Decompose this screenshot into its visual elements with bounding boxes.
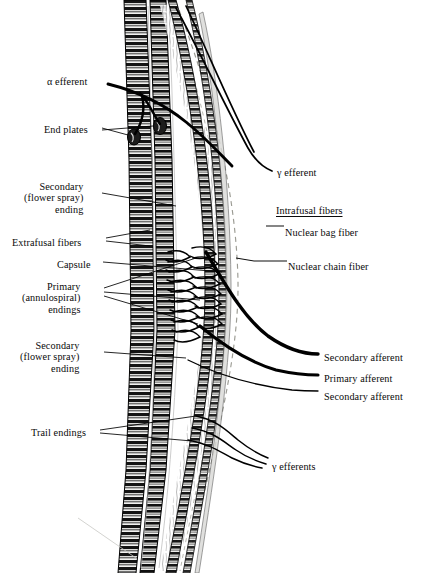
label-secondary-afferent-1: Secondary afferent — [324, 352, 403, 363]
label-nuclear-chain-fiber: Nuclear chain fiber — [288, 261, 369, 272]
label-secondary-afferent-2: Secondary afferent — [324, 391, 403, 402]
label-nuclear-bag-fiber: Nuclear bag fiber — [285, 227, 358, 238]
label-extrafusal-fibers: Extrafusal fibers — [12, 237, 81, 248]
label-trail-endings: Trail endings — [31, 427, 86, 438]
label-gamma-efferent: γ efferent — [277, 167, 317, 178]
label-capsule: Capsule — [57, 259, 91, 270]
label-gamma-efferents: γ efferents — [272, 461, 316, 472]
label-alpha-efferent: α efferent — [47, 76, 87, 87]
label-primary-endings: Primary (annulospiral) endings — [22, 281, 81, 315]
label-secondary-ending-upper: Secondary (flower spray) ending — [24, 181, 83, 215]
label-intrafusal-fibers: Intrafusal fibers — [276, 205, 342, 216]
label-primary-afferent: Primary afferent — [324, 373, 392, 384]
figure-canvas: α efferentEnd platesSecondary (flower sp… — [0, 0, 433, 573]
label-end-plates: End plates — [44, 124, 88, 135]
label-secondary-ending-lower: Secondary (flower spray) ending — [20, 340, 79, 374]
